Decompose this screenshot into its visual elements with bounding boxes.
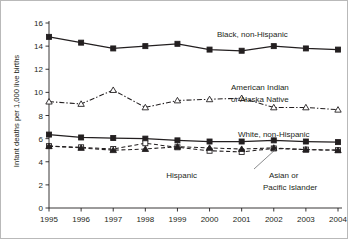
marker-filled-square	[111, 136, 116, 141]
marker-open-triangle	[110, 87, 116, 93]
x-tick-label: 2004	[329, 215, 347, 224]
marker-filled-square	[79, 40, 84, 45]
y-tick-label: 16	[34, 19, 43, 28]
marker-filled-square	[271, 44, 276, 49]
series-label-hispanic: Hispanic	[166, 171, 197, 180]
marker-filled-square	[47, 132, 52, 137]
x-tick-label: 1995	[40, 215, 58, 224]
marker-filled-square	[175, 138, 180, 143]
marker-filled-square	[207, 47, 212, 52]
series-label-asian-line1: Asian or	[269, 171, 299, 180]
x-tick-label: 2003	[297, 215, 315, 224]
x-tick-label: 2002	[265, 215, 283, 224]
marker-filled-square	[303, 46, 308, 51]
marker-filled-square	[111, 46, 116, 51]
y-tick-label: 14	[34, 42, 43, 51]
y-tick-label: 10	[34, 88, 43, 97]
marker-open-triangle	[78, 101, 84, 107]
marker-filled-square	[303, 139, 308, 144]
y-tick-label: 4	[39, 158, 44, 167]
series-line	[49, 143, 338, 152]
y-tick-label: 0	[39, 204, 44, 213]
marker-filled-square	[207, 139, 212, 144]
x-axis: 1995199619971998199920002001200220032004	[40, 208, 347, 224]
series-line	[49, 90, 338, 110]
x-tick-label: 1996	[72, 215, 90, 224]
series-line	[49, 37, 338, 51]
series-label-american-indian-line2: or Alaska Native	[231, 95, 289, 104]
marker-filled-square	[47, 34, 52, 39]
marker-filled-square	[79, 135, 84, 140]
y-axis: 0246810121416	[34, 19, 49, 213]
x-tick-label: 1997	[104, 215, 122, 224]
marker-open-square	[143, 141, 148, 146]
x-tick-label: 2000	[201, 215, 219, 224]
chart-figure: 0246810121416 19951996199719981999200020…	[0, 0, 348, 239]
y-tick-label: 6	[39, 135, 44, 144]
y-tick-label: 2	[39, 181, 44, 190]
marker-filled-square	[175, 41, 180, 46]
line-chart: 0246810121416 19951996199719981999200020…	[1, 1, 348, 239]
y-tick-label: 12	[34, 65, 43, 74]
series-label-asian-line2: Pacific Islander	[263, 183, 318, 192]
y-axis-title: Infant deaths per 1,000 live births	[12, 55, 21, 167]
marker-filled-square	[336, 47, 341, 52]
marker-filled-square	[239, 48, 244, 53]
x-tick-label: 1998	[136, 215, 154, 224]
y-tick-label: 8	[39, 112, 44, 121]
series-label-black: Black, non-Hispanic	[217, 30, 288, 39]
leader-line-asian	[254, 149, 276, 169]
marker-filled-square	[336, 140, 341, 145]
marker-filled-square	[143, 44, 148, 49]
series-label-white: White, non-Hispanic	[238, 130, 310, 139]
marker-filled-square	[239, 139, 244, 144]
series-label-american-indian-line1: American Indian	[231, 83, 289, 92]
x-tick-label: 1999	[169, 215, 187, 224]
marker-open-triangle	[335, 107, 341, 113]
x-tick-label: 2001	[233, 215, 251, 224]
